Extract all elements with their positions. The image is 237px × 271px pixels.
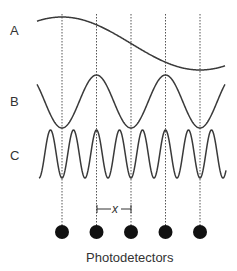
caption-photodetectors: Photodetectors <box>86 250 174 265</box>
curve-a-label: A <box>10 23 19 38</box>
curve-c-label: C <box>10 148 19 163</box>
photodetector-1 <box>55 225 69 239</box>
photodetector-wave-diagram: A B C x Photodetectors <box>0 0 237 271</box>
curve-b-label: B <box>10 94 19 109</box>
spacing-marker: x <box>97 202 131 216</box>
spacing-label: x <box>111 202 119 216</box>
photodetector-2 <box>90 225 104 239</box>
photodetector-5 <box>193 225 207 239</box>
photodetector-3 <box>124 225 138 239</box>
detector-guide-lines <box>62 14 200 226</box>
photodetector-4 <box>159 225 173 239</box>
curve-c <box>39 130 226 178</box>
photodetectors <box>55 225 207 239</box>
